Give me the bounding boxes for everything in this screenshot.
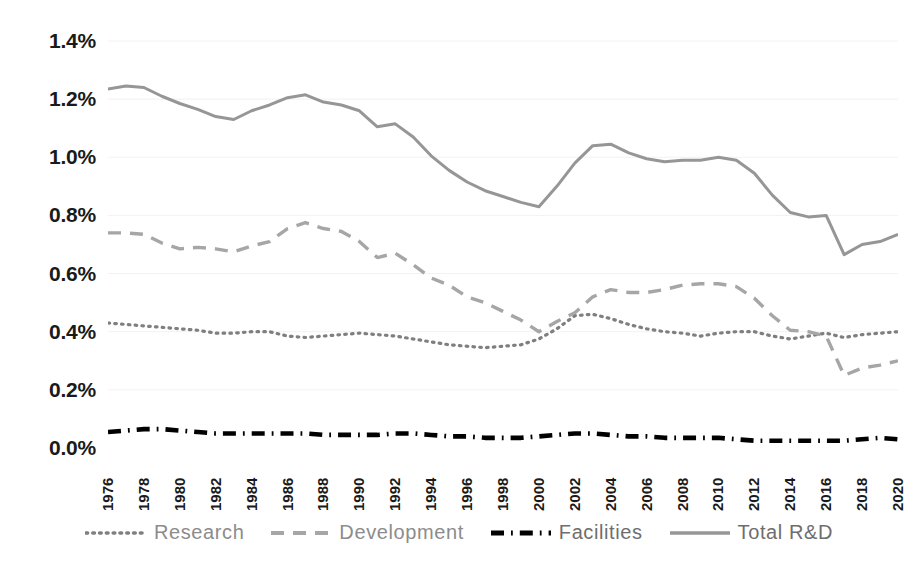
y-axis-tick-label: 1.4% <box>10 29 96 53</box>
legend-label: Development <box>339 521 463 544</box>
y-axis-tick-label: 0.0% <box>10 436 96 460</box>
dotted-line-swatch <box>85 526 147 540</box>
x-axis-tick-label: 2006 <box>639 459 654 511</box>
y-axis-tick-label: 1.0% <box>10 145 96 169</box>
x-axis-tick-label: 1986 <box>280 459 295 511</box>
x-axis-tick-label: 2004 <box>603 459 618 511</box>
legend-item-total-r-d[interactable]: Total R&D <box>669 521 833 544</box>
x-axis-tick-label: 2020 <box>890 459 905 511</box>
x-axis-tick-label: 1984 <box>244 459 259 511</box>
series-line-research <box>108 314 898 347</box>
y-axis-tick-label: 0.4% <box>10 320 96 344</box>
x-axis-tick-label: 2012 <box>746 459 761 511</box>
x-axis-tick-label: 1980 <box>172 459 187 511</box>
x-axis-tick-label: 1994 <box>423 459 438 511</box>
chart-container: 0.0%0.2%0.4%0.6%0.8%1.0%1.2%1.4% 1976197… <box>0 0 918 570</box>
solid-line-swatch <box>669 526 731 540</box>
x-axis-tick-label: 1982 <box>208 459 223 511</box>
legend-item-development[interactable]: Development <box>270 521 463 544</box>
y-axis-tick-label: 0.2% <box>10 378 96 402</box>
legend-label: Research <box>154 521 244 544</box>
x-axis-tick-label: 1988 <box>315 459 330 511</box>
series-line-facilities <box>108 429 898 441</box>
series-line-total-r-d <box>108 86 898 255</box>
x-axis-tick-label: 2018 <box>854 459 869 511</box>
x-axis-tick-label: 1996 <box>459 459 474 511</box>
x-axis-tick-label: 2014 <box>782 459 797 511</box>
legend-label: Total R&D <box>738 521 833 544</box>
x-axis-tick-label: 2010 <box>710 459 725 511</box>
x-axis-tick-label: 1992 <box>387 459 402 511</box>
x-axis-tick-label: 1978 <box>136 459 151 511</box>
x-axis-tick-label: 1976 <box>100 459 115 511</box>
y-axis-tick-label: 1.2% <box>10 87 96 111</box>
legend-item-research[interactable]: Research <box>85 521 244 544</box>
legend-label: Facilities <box>559 521 643 544</box>
dashdot-line-swatch <box>490 526 552 540</box>
x-axis-tick-label: 2016 <box>818 459 833 511</box>
x-axis-tick-label: 2000 <box>531 459 546 511</box>
x-axis-tick-label: 2008 <box>675 459 690 511</box>
y-axis-tick-label: 0.8% <box>10 203 96 227</box>
y-axis-tick-label: 0.6% <box>10 262 96 286</box>
series-line-development <box>108 223 898 376</box>
y-axis: 0.0%0.2%0.4%0.6%0.8%1.0%1.2%1.4% <box>0 0 96 570</box>
chart-legend: ResearchDevelopmentFacilitiesTotal R&D <box>0 521 918 544</box>
x-axis-tick-label: 2002 <box>567 459 582 511</box>
x-axis-tick-label: 1990 <box>351 459 366 511</box>
legend-item-facilities[interactable]: Facilities <box>490 521 643 544</box>
x-axis-tick-label: 1998 <box>495 459 510 511</box>
dashed-line-swatch <box>270 526 332 540</box>
